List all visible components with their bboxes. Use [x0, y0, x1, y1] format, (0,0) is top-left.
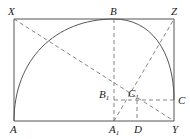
label-a: A	[9, 123, 17, 135]
geometry-diagram: X B Z A A1 D Y B1 C1 C	[0, 0, 190, 139]
label-b: B	[110, 5, 117, 17]
label-b1: B1	[99, 88, 109, 102]
label-c1: C1	[128, 87, 139, 101]
label-x: X	[7, 5, 16, 17]
point-labels: X B Z A A1 D Y B1 C1 C	[7, 5, 186, 137]
label-c: C	[178, 94, 186, 106]
diagonal-a1-z	[114, 19, 174, 121]
label-y: Y	[172, 123, 180, 135]
diagonal-xy	[14, 19, 174, 121]
label-a1: A1	[108, 123, 119, 137]
label-d: D	[133, 123, 142, 135]
label-z: Z	[171, 5, 178, 17]
dashed-construction-lines	[14, 19, 174, 121]
